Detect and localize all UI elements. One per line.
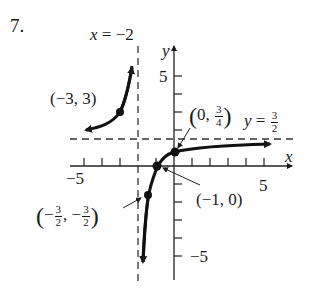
numerator: 3 (82, 204, 90, 217)
point-neg3-3 (116, 108, 124, 116)
point-label-neg3-3: (−3, 3) (50, 90, 96, 107)
y-axis-label: y (162, 42, 170, 59)
eq-text: = (252, 111, 270, 130)
x-tick-label-5: 5 (259, 177, 268, 194)
open-paren: ( (36, 203, 44, 229)
problem-number: 7. (10, 16, 24, 35)
fraction-2: 32 (82, 204, 90, 228)
eq-text: = −2 (98, 25, 134, 44)
denominator: 2 (55, 217, 63, 229)
minus: − (44, 205, 54, 224)
x-axis-label: x (285, 148, 293, 165)
point-neg1-0 (153, 162, 162, 171)
var-x: x (90, 25, 98, 44)
open-paren: ( (189, 103, 197, 129)
leader-0-3-4 (178, 128, 190, 148)
separator: , − (63, 205, 81, 224)
x-axis (70, 158, 292, 166)
var-y: y (244, 111, 252, 130)
point-label-neg1-0: (−1, 0) (196, 191, 242, 208)
y-tick-label-5: 5 (159, 68, 168, 85)
y-axis (174, 46, 182, 280)
fraction: 34 (215, 104, 223, 128)
numerator: 3 (271, 110, 279, 123)
horizontal-asymptote-label: y = 32 (244, 110, 279, 134)
denominator: 2 (82, 217, 90, 229)
leader-neg1-0 (163, 168, 200, 185)
close-paren: ) (224, 103, 232, 129)
x-tick-label-neg5: −5 (66, 170, 84, 187)
denominator: 4 (215, 117, 223, 129)
denominator: 2 (271, 123, 279, 135)
fraction: 32 (271, 110, 279, 134)
point-0-3-4 (171, 148, 180, 157)
point-neg3-2-neg3-2 (144, 191, 152, 199)
y-tick-label-neg5: −5 (190, 248, 208, 265)
graph-canvas (0, 0, 312, 305)
close-paren: ) (91, 203, 99, 229)
point-label-0-3-4: (0, 34) (189, 104, 232, 128)
vertical-asymptote-label: x = −2 (90, 26, 134, 43)
prefix: 0, (197, 105, 214, 124)
numerator: 3 (215, 104, 223, 117)
fraction-1: 32 (55, 204, 63, 228)
numerator: 3 (55, 204, 63, 217)
point-label-neg3-2-neg3-2: (−32, −32) (36, 204, 99, 228)
